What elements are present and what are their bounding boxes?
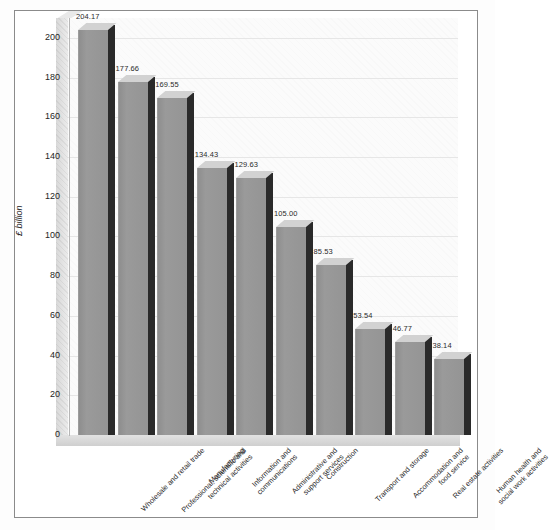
- bar-value-label: 204.17: [76, 12, 100, 21]
- gridline: [68, 38, 458, 39]
- bar-value-label: 169.55: [155, 80, 179, 89]
- bar-side-face: [306, 222, 313, 436]
- bar-front-face: [78, 30, 109, 435]
- bar: [157, 98, 187, 435]
- bar-front-face: [434, 359, 465, 435]
- bar: [236, 178, 266, 435]
- bar: [276, 227, 306, 436]
- bar-front-face: [236, 178, 267, 435]
- bar-value-label: 85.53: [314, 247, 333, 256]
- bar: [434, 359, 464, 435]
- bar-side-face: [346, 260, 353, 435]
- y-axis-tick-label: 0: [30, 429, 60, 439]
- y-axis-tick-label: 140: [30, 151, 60, 161]
- bar-front-face: [276, 227, 307, 436]
- bar-side-face: [148, 77, 155, 435]
- bar: [118, 82, 148, 435]
- bar-value-label: 177.66: [116, 64, 140, 73]
- bar-value-label: 134.43: [195, 150, 219, 159]
- bar-side-face: [227, 163, 234, 435]
- bar-side-face: [464, 354, 471, 435]
- y-axis-tick-label: 100: [30, 230, 60, 240]
- y-axis-title: £ billion: [14, 205, 24, 236]
- y-axis-tick-label: 200: [30, 32, 60, 42]
- bar-side-face: [108, 25, 115, 435]
- bar-side-face: [266, 173, 273, 435]
- y-axis-line: [69, 18, 70, 436]
- plot-floor-3d: [56, 435, 460, 446]
- bar-front-face: [118, 82, 149, 435]
- y-axis-tick-label: 40: [30, 350, 60, 360]
- bar-front-face: [157, 98, 188, 435]
- y-axis-tick-label: 80: [30, 270, 60, 280]
- y-axis-tick-label: 180: [30, 72, 60, 82]
- bar-value-label: 38.14: [432, 341, 451, 350]
- bar-side-face: [187, 93, 194, 435]
- y-axis-tick-label: 120: [30, 191, 60, 201]
- bar: [78, 30, 108, 435]
- bar: [395, 342, 425, 435]
- bar-side-face: [385, 324, 392, 435]
- bar-value-label: 46.77: [393, 324, 412, 333]
- bar: [355, 329, 385, 435]
- bar-side-face: [425, 337, 432, 435]
- bar-front-face: [316, 265, 347, 435]
- y-axis-tick-label: 20: [30, 389, 60, 399]
- y-axis-tick-label: 60: [30, 310, 60, 320]
- y-axis-tick-label: 160: [30, 111, 60, 121]
- bar-value-label: 53.54: [353, 311, 372, 320]
- bar: [197, 168, 227, 435]
- bar-front-face: [197, 168, 228, 435]
- bar-value-label: 105.00: [274, 209, 298, 218]
- bar-value-label: 129.63: [234, 160, 258, 169]
- bar-front-face: [355, 329, 386, 435]
- bar-front-face: [395, 342, 426, 435]
- bar: [316, 265, 346, 435]
